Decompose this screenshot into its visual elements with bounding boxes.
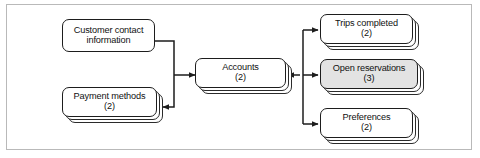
diagram-canvas: Customer contact information Payment met… (0, 0, 480, 158)
node-box-open-reservations: Open reservations (3) (320, 59, 418, 89)
node-box-accounts: Accounts (2) (195, 58, 286, 88)
node-box-payment-methods: Payment methods (2) (62, 87, 157, 117)
node-payment-methods[interactable]: Payment methods (2) (62, 87, 163, 123)
node-sublabel-customer-contact-information: information (87, 36, 131, 46)
node-count-preferences: (2) (361, 123, 372, 133)
node-box-preferences: Preferences (2) (320, 108, 413, 138)
node-count-trips-completed: (2) (361, 29, 372, 39)
node-preferences[interactable]: Preferences (2) (320, 108, 419, 144)
node-count-payment-methods: (2) (104, 102, 115, 112)
node-open-reservations[interactable]: Open reservations (3) (320, 59, 424, 95)
node-trips-completed[interactable]: Trips completed (2) (320, 14, 419, 50)
node-count-accounts: (2) (235, 73, 246, 83)
node-accounts[interactable]: Accounts (2) (195, 58, 292, 94)
connector-left-bus (163, 75, 174, 107)
node-customer-contact-information[interactable]: Customer contact information (62, 19, 155, 52)
node-count-open-reservations: (3) (364, 74, 375, 84)
node-box-customer-contact-information: Customer contact information (62, 19, 155, 52)
node-box-trips-completed: Trips completed (2) (320, 14, 413, 44)
connector-contact-to-accounts (155, 41, 174, 75)
